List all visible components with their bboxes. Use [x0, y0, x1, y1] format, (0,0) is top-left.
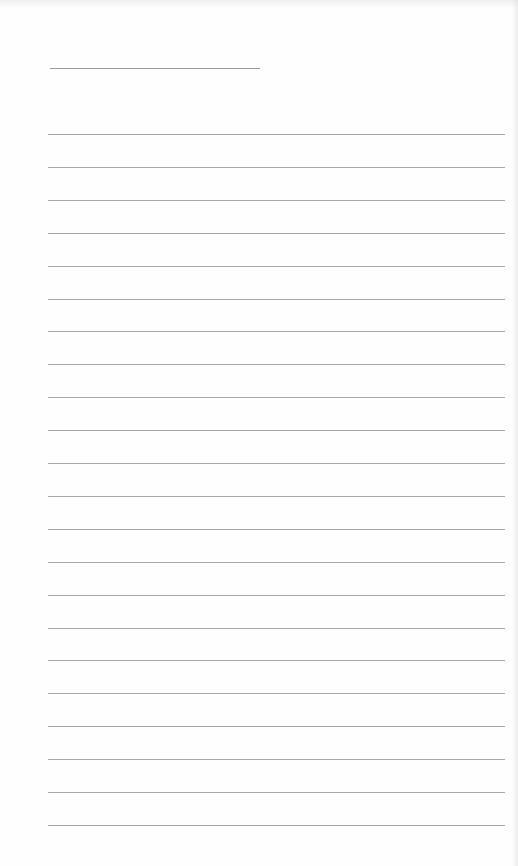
- ruled-line: [48, 496, 505, 497]
- ruled-line: [48, 693, 505, 694]
- ruled-line: [48, 463, 505, 464]
- ruled-line: [48, 397, 505, 398]
- scan-bleed-through: [0, 0, 518, 8]
- ruled-line: [48, 529, 505, 530]
- ruled-line: [48, 200, 505, 201]
- ruled-line: [48, 759, 505, 760]
- ruled-line: [48, 825, 505, 826]
- ruled-line: [48, 167, 505, 168]
- ruled-line: [48, 266, 505, 267]
- ruled-line: [48, 430, 505, 431]
- ruled-line: [48, 233, 505, 234]
- ruled-line: [48, 134, 505, 135]
- ruled-line: [48, 628, 505, 629]
- ruled-line: [48, 660, 505, 661]
- ruled-line: [48, 792, 505, 793]
- title-line: [50, 68, 260, 69]
- ruled-line: [48, 364, 505, 365]
- ruled-line: [48, 595, 505, 596]
- ruled-line: [48, 299, 505, 300]
- ruled-page: [0, 0, 518, 866]
- page-edge-shadow: [512, 0, 518, 866]
- ruled-line: [48, 726, 505, 727]
- ruled-line: [48, 331, 505, 332]
- ruled-line: [48, 562, 505, 563]
